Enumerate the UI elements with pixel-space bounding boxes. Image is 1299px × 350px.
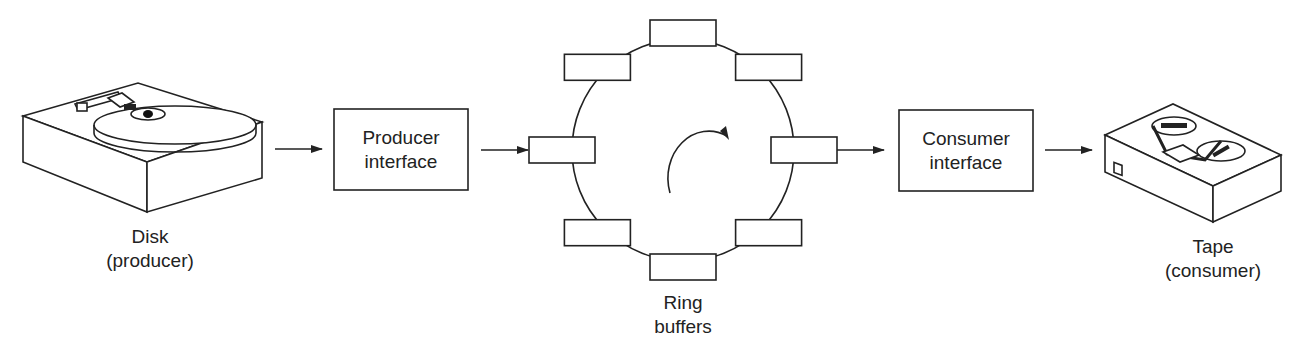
ring-buffer-slot xyxy=(529,137,595,163)
disk-label-line1: Disk xyxy=(132,226,169,247)
producer-interface-box xyxy=(334,109,468,190)
ring-buffer-slot xyxy=(736,220,802,246)
ring-buffer-slot xyxy=(650,20,716,46)
ring-buffer-diagram: Disk (producer) Producer interface Ring … xyxy=(0,0,1299,350)
ring-buffer-slot xyxy=(564,220,630,246)
tape-label-line2: (consumer) xyxy=(1165,260,1261,281)
ring-label-line1: Ring xyxy=(663,292,702,313)
producer-interface-line1: Producer xyxy=(362,127,440,148)
producer-interface-line2: interface xyxy=(365,151,438,172)
clockwise-arrow-icon xyxy=(668,131,727,193)
disk-drive-icon xyxy=(23,83,262,212)
disk-label-line2: (producer) xyxy=(106,250,194,271)
ring-buffer-slot xyxy=(771,137,837,163)
ring-label-line2: buffers xyxy=(654,316,712,337)
ring-buffer-slot xyxy=(736,54,802,80)
tape-drive-icon xyxy=(1105,104,1281,222)
ring-buffer-slot xyxy=(650,254,716,280)
consumer-interface-box xyxy=(899,110,1033,191)
consumer-interface-line2: interface xyxy=(930,152,1003,173)
ring-buffer-slot xyxy=(564,54,630,80)
consumer-interface-line1: Consumer xyxy=(922,128,1010,149)
tape-label-line1: Tape xyxy=(1192,236,1233,257)
ring-buffers xyxy=(529,20,837,280)
